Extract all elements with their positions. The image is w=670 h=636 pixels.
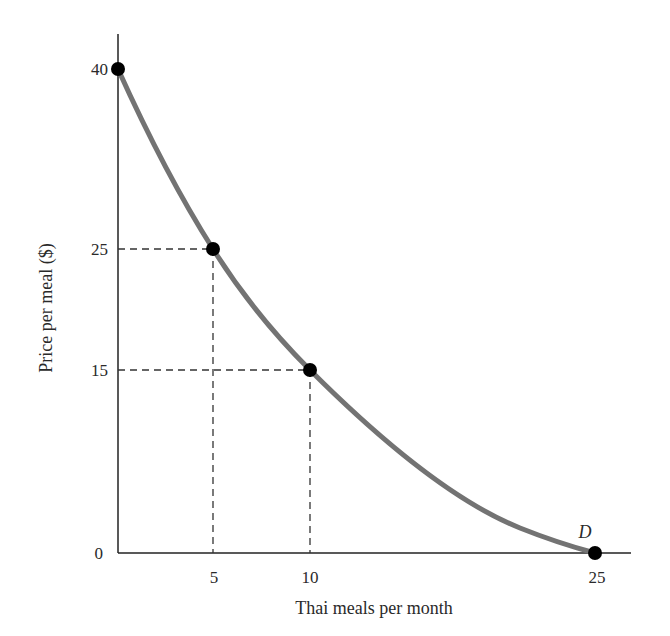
reference-lines — [118, 249, 310, 553]
curve-label-d: D — [578, 522, 592, 542]
data-point-0-40 — [111, 62, 125, 76]
x-axis-label: Thai meals per month — [295, 598, 452, 618]
data-point-5-25 — [206, 242, 220, 256]
data-point-25-0 — [588, 546, 602, 560]
y-tick-40: 40 — [91, 60, 108, 79]
y-tick-15: 15 — [91, 361, 108, 380]
demand-curve — [118, 69, 595, 553]
demand-curve-chart: 40 25 15 0 5 10 25 Thai meals per month … — [0, 0, 670, 636]
x-tick-25: 25 — [589, 568, 606, 587]
data-point-10-15 — [303, 363, 317, 377]
y-axis-label: Price per meal ($) — [36, 243, 57, 372]
data-points — [111, 62, 602, 560]
x-tick-10: 10 — [302, 568, 319, 587]
x-tick-5: 5 — [210, 568, 219, 587]
y-tick-25: 25 — [91, 240, 108, 259]
y-tick-0: 0 — [95, 544, 104, 563]
